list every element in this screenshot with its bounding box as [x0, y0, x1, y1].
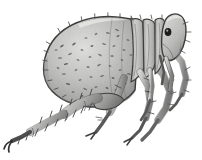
abdomen-speckle [55, 49, 58, 51]
flea-illustration-figure: Grayscale pencil illustration of a flea … [0, 0, 202, 160]
eye-icon [165, 28, 172, 36]
flea-illustration-canvas [0, 0, 202, 160]
